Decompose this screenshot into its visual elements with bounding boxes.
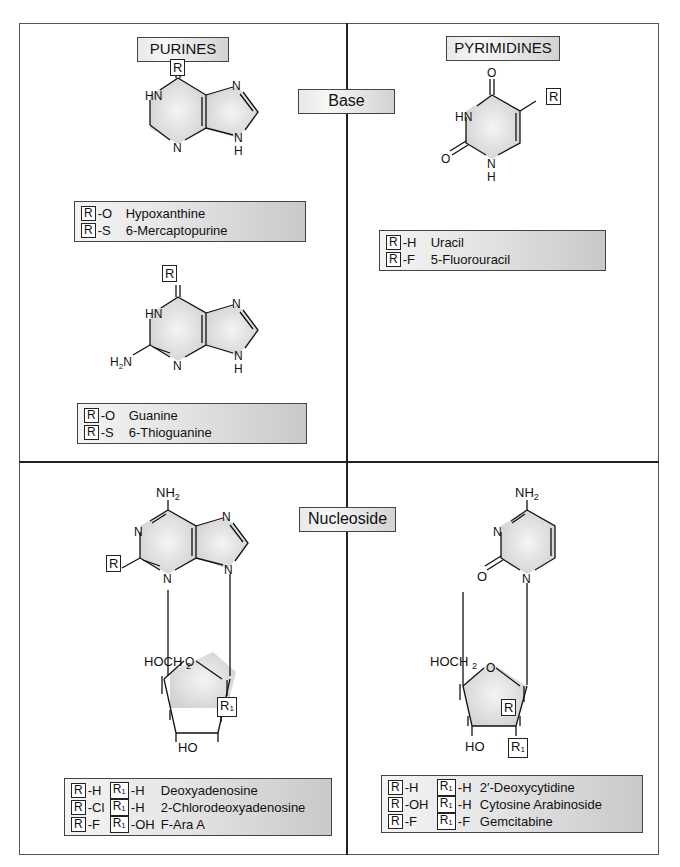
svg-text:N: N: [163, 572, 172, 586]
legend-row: R -S 6-Thioguanine: [84, 424, 300, 441]
hypoxanthine-legend: R -O Hypoxanthine R -S 6-Mercaptopurine: [74, 201, 306, 242]
legend-row: R -F 5-Fluorouracil: [386, 251, 599, 268]
svg-text:H: H: [234, 362, 243, 376]
svg-text:H: H: [234, 144, 243, 158]
r-group-label: -H: [405, 779, 437, 796]
r1-box: R1: [110, 782, 129, 799]
r-substituent-box: R: [501, 699, 516, 716]
r-group-label: -H: [88, 782, 110, 799]
svg-text:N: N: [522, 572, 531, 586]
svg-text:HN: HN: [455, 110, 472, 124]
legend-row: R -O Hypoxanthine: [81, 205, 299, 222]
group-label: -O: [101, 407, 129, 424]
r-substituent-box: R: [162, 265, 177, 282]
purine-structure-1: HN N N N H: [130, 60, 270, 180]
r1-group-label: -H: [458, 796, 480, 813]
r-substituent-box: R: [170, 59, 185, 76]
pyrimidine-nucleoside-structure: NH2 N O N HOCH 2 O HO: [420, 480, 580, 760]
r-box: R: [71, 817, 86, 832]
legend-row: R -H R1 -H 2′-Deoxycytidine: [388, 779, 636, 796]
svg-text:H: H: [487, 170, 496, 184]
svg-text:N: N: [232, 297, 241, 311]
svg-text:O: O: [486, 661, 495, 675]
svg-text:N: N: [224, 563, 233, 577]
pyrimidine-structure: O HN O N H: [440, 65, 570, 205]
r1-substituent-box: R1: [217, 697, 237, 717]
base-label: Base: [298, 89, 395, 114]
legend-row: R -O Guanine: [84, 407, 300, 424]
group-label: -H: [403, 234, 431, 251]
guanine-legend: R -O Guanine R -S 6-Thioguanine: [77, 403, 307, 444]
vertical-divider: [346, 23, 348, 855]
svg-text:O: O: [487, 66, 496, 80]
compound-name: Uracil: [431, 234, 464, 251]
r-substituent-box: R: [106, 555, 121, 572]
r1-box: R1: [437, 779, 456, 796]
svg-text:O: O: [441, 152, 450, 166]
compound-name: Guanine: [129, 407, 178, 424]
svg-text:N: N: [234, 131, 243, 145]
r-box: R: [84, 408, 99, 423]
legend-row: R -H R1 -H Deoxyadenosine: [71, 782, 325, 799]
r1-box: R1: [437, 796, 456, 813]
r-box: R: [388, 814, 403, 829]
r-box: R: [71, 783, 86, 798]
adenosine-legend: R -H R1 -H Deoxyadenosine R -Cl R1 -H 2-…: [64, 778, 332, 836]
compound-name: 2′-Deoxycytidine: [480, 779, 575, 796]
r-box: R: [71, 800, 86, 815]
r-box: R: [84, 425, 99, 440]
legend-row: R -OH R1 -H Cytosine Arabinoside: [388, 796, 636, 813]
legend-row: R -Cl R1 -H 2-Chlorodeoxyadenosine: [71, 799, 325, 816]
group-label: -S: [101, 424, 129, 441]
svg-text:N: N: [487, 157, 496, 171]
svg-text:N: N: [493, 525, 502, 539]
r-group-label: -Cl: [88, 799, 110, 816]
legend-row: R -F R1 -F Gemcitabine: [388, 813, 636, 830]
svg-text:H2N: H2N: [110, 355, 132, 371]
r-group-label: -F: [88, 816, 110, 833]
svg-text:HN: HN: [145, 307, 162, 321]
group-label: -S: [98, 222, 126, 239]
r1-substituent-box: R1: [508, 738, 528, 758]
svg-text:HOCH 2: HOCH 2: [430, 654, 477, 671]
cytidine-legend: R -H R1 -H 2′-Deoxycytidine R -OH R1 -H …: [381, 775, 643, 833]
r1-box: R1: [110, 816, 129, 833]
svg-text:HOCH 2: HOCH 2: [144, 654, 191, 671]
r1-box: R1: [437, 813, 456, 830]
r-substituent-box: R: [546, 88, 561, 105]
compound-name: 2-Chlorodeoxyadenosine: [161, 799, 306, 816]
r-group-label: -OH: [405, 796, 437, 813]
r1-group-label: -H: [131, 782, 161, 799]
group-label: -O: [98, 205, 126, 222]
r-group-label: -F: [405, 813, 437, 830]
purine-nucleoside-structure: NH2 N N N N HOCH 2 O HO: [100, 480, 300, 760]
uracil-legend: R -H Uracil R -F 5-Fluorouracil: [379, 230, 606, 271]
horizontal-divider: [19, 461, 659, 463]
legend-row: R -S 6-Mercaptopurine: [81, 222, 299, 239]
r-box: R: [81, 206, 96, 221]
legend-row: R -F R1 -OH F-Ara A: [71, 816, 325, 833]
compound-name: Hypoxanthine: [126, 205, 206, 222]
compound-name: Cytosine Arabinoside: [480, 796, 602, 813]
r1-group-label: -F: [458, 813, 480, 830]
r-box: R: [386, 235, 401, 250]
r1-group-label: -OH: [131, 816, 161, 833]
svg-text:NH2: NH2: [515, 485, 539, 502]
svg-text:N: N: [222, 510, 231, 524]
r1-group-label: -H: [131, 799, 161, 816]
svg-text:HO: HO: [178, 740, 198, 755]
compound-name: Gemcitabine: [480, 813, 553, 830]
r1-group-label: -H: [458, 779, 480, 796]
r-box: R: [388, 780, 403, 795]
svg-text:O: O: [477, 569, 487, 584]
compound-name: 6-Mercaptopurine: [126, 222, 228, 239]
legend-row: R -H Uracil: [386, 234, 599, 251]
nucleoside-label: Nucleoside: [299, 507, 396, 532]
svg-text:N: N: [173, 141, 182, 155]
group-label: -F: [403, 251, 431, 268]
pyrimidines-title: PYRIMIDINES: [446, 36, 560, 61]
compound-name: 6-Thioguanine: [129, 424, 212, 441]
compound-name: 5-Fluorouracil: [431, 251, 510, 268]
compound-name: F-Ara A: [161, 816, 205, 833]
svg-text:N: N: [173, 359, 182, 373]
